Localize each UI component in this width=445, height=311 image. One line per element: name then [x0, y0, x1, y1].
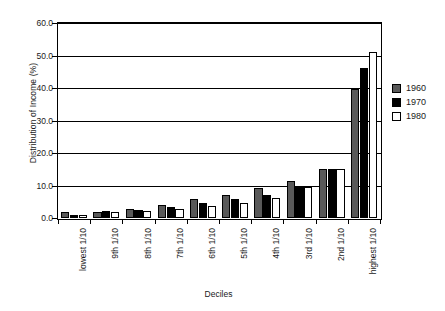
x-axis-title: Deciles: [57, 289, 380, 299]
legend-label-1980: 1980: [406, 112, 426, 121]
bar-1970-highest-1-10: [360, 68, 368, 218]
bar-1960-6th-1-10: [190, 199, 198, 218]
x-tick-label: 2nd 1/10: [336, 228, 346, 261]
bar-1980-7th-1-10: [175, 209, 183, 218]
x-tick-label: 4th 1/10: [271, 228, 281, 259]
bar-1960-2nd-1-10: [319, 169, 327, 218]
bar-1970-6th-1-10: [199, 203, 207, 218]
bar-1970-lowest-1-10: [70, 215, 78, 218]
bar-group: [155, 23, 187, 218]
bar-1970-3rd-1-10: [295, 187, 303, 218]
bar-group: [219, 23, 251, 218]
y-tick-label: 50.0: [13, 51, 53, 60]
bar-1970-4th-1-10: [263, 195, 271, 218]
bar-group: [283, 23, 315, 218]
x-tick-mark: [316, 219, 317, 224]
x-tick-label: 8th 1/10: [143, 228, 153, 259]
x-tick-mark: [283, 219, 284, 224]
legend-swatch-1970: [392, 98, 401, 107]
x-tick-mark: [122, 219, 123, 224]
bar-group: [90, 23, 122, 218]
legend-label-1970: 1970: [406, 98, 426, 107]
x-tick-mark: [251, 219, 252, 224]
bar-1980-8th-1-10: [143, 211, 151, 218]
x-tick-mark: [155, 219, 156, 224]
bar-1960-3rd-1-10: [287, 181, 295, 218]
x-tick-label: 9th 1/10: [110, 228, 120, 259]
bar-group: [348, 23, 380, 218]
x-tick-label: lowest 1/10: [78, 228, 88, 271]
bar-1960-4th-1-10: [254, 188, 262, 218]
bar-1970-9th-1-10: [102, 211, 110, 218]
y-tick-label: 30.0: [13, 116, 53, 125]
bar-1980-lowest-1-10: [79, 215, 87, 218]
x-tick-mark: [380, 219, 381, 224]
x-tick-mark: [348, 219, 349, 224]
bar-1980-6th-1-10: [208, 206, 216, 218]
x-tick-mark: [58, 219, 59, 224]
y-tick-label: 40.0: [13, 84, 53, 93]
bar-1980-highest-1-10: [369, 52, 377, 218]
legend-label-1960: 1960: [406, 84, 426, 93]
y-tick-label: 10.0: [13, 181, 53, 190]
bar-1980-2nd-1-10: [336, 169, 344, 218]
income-distribution-bar-chart: Distribution of Income (%) 0.010.020.030…: [0, 0, 445, 311]
bar-1960-lowest-1-10: [61, 212, 69, 218]
bar-1980-9th-1-10: [111, 212, 119, 218]
bar-1960-9th-1-10: [93, 212, 101, 218]
bar-group: [187, 23, 219, 218]
x-tick-label: 6th 1/10: [207, 228, 217, 259]
bar-1960-5th-1-10: [222, 195, 230, 218]
bar-1980-3rd-1-10: [304, 187, 312, 218]
chart-legend: 196019701980: [392, 81, 442, 123]
bar-1970-8th-1-10: [134, 210, 142, 218]
x-tick-mark: [219, 219, 220, 224]
legend-item-1980: 1980: [392, 109, 442, 123]
x-tick-label: 3rd 1/10: [304, 228, 314, 259]
bar-groups: [58, 23, 380, 218]
legend-item-1960: 1960: [392, 81, 442, 95]
x-tick-label: 7th 1/10: [175, 228, 185, 259]
bar-group: [122, 23, 154, 218]
legend-swatch-1960: [392, 84, 401, 93]
bar-1980-5th-1-10: [240, 203, 248, 218]
bar-group: [316, 23, 348, 218]
y-tick-label: 60.0: [13, 19, 53, 28]
x-tick-label: 5th 1/10: [239, 228, 249, 259]
x-tick-mark: [90, 219, 91, 224]
y-tick-label: 20.0: [13, 149, 53, 158]
bar-group: [251, 23, 283, 218]
bar-1960-highest-1-10: [351, 89, 359, 218]
bar-1970-2nd-1-10: [328, 169, 336, 218]
legend-swatch-1980: [392, 112, 401, 121]
bar-group: [58, 23, 90, 218]
bar-1960-8th-1-10: [126, 209, 134, 218]
bar-1960-7th-1-10: [158, 205, 166, 218]
legend-item-1970: 1970: [392, 95, 442, 109]
x-tick-label: highest 1/10: [368, 228, 378, 274]
bar-1970-7th-1-10: [167, 207, 175, 218]
y-tick-label: 0.0: [13, 214, 53, 223]
x-tick-mark: [187, 219, 188, 224]
bar-1980-4th-1-10: [272, 198, 280, 218]
bar-1970-5th-1-10: [231, 199, 239, 218]
